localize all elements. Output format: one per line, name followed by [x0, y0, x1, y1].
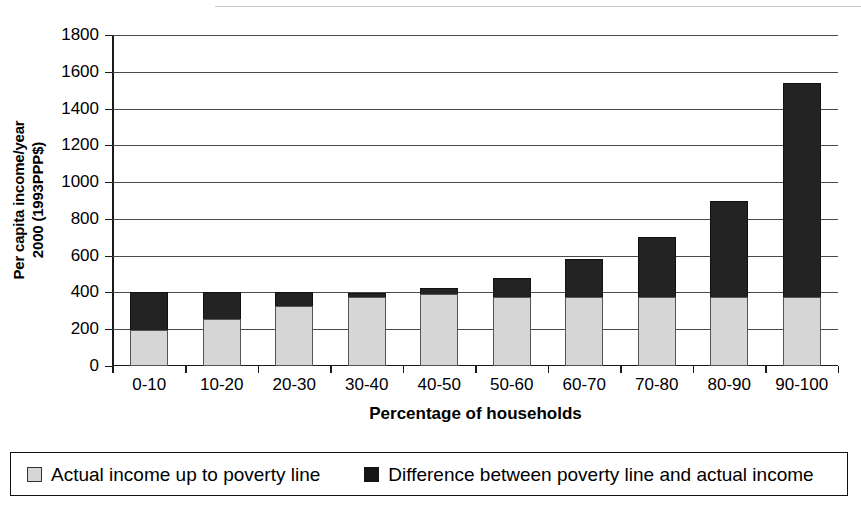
legend-item-difference: Difference between poverty line and actu… — [364, 465, 813, 484]
y-tick-mark — [105, 292, 112, 293]
y-tick-mark — [105, 329, 112, 330]
bar-segment-difference[interactable] — [710, 201, 748, 297]
bars-group — [113, 35, 838, 366]
bar-segment-difference[interactable] — [493, 278, 531, 297]
bar-slot — [258, 35, 331, 366]
plot-area: 020040060080010001200140016001800 — [113, 35, 838, 366]
stacked-bar[interactable] — [130, 292, 168, 366]
bar-segment-actual-income[interactable] — [275, 306, 313, 366]
y-tick-label: 200 — [39, 320, 99, 337]
y-axis-title: Per capita income/year 2000 (1993PPP$) — [0, 30, 56, 370]
bar-slot — [621, 35, 694, 366]
stacked-bar[interactable] — [275, 292, 313, 366]
x-tick-label: 0-10 — [113, 374, 186, 398]
scan-artifact-line — [215, 6, 861, 7]
stacked-bar[interactable] — [638, 237, 676, 366]
y-tick-label: 1600 — [39, 63, 99, 80]
bar-segment-difference[interactable] — [565, 259, 603, 297]
legend-label-actual-income: Actual income up to poverty line — [51, 465, 320, 484]
y-tick-mark — [105, 366, 112, 367]
stacked-bar[interactable] — [493, 278, 531, 366]
y-tick-label: 1400 — [39, 100, 99, 117]
stacked-bar[interactable] — [203, 292, 241, 366]
bar-segment-actual-income[interactable] — [493, 297, 531, 366]
y-tick-mark — [105, 256, 112, 257]
bar-slot — [186, 35, 259, 366]
x-tick-mark — [403, 366, 405, 373]
x-tick-mark — [548, 366, 550, 373]
bar-slot — [403, 35, 476, 366]
stacked-bar[interactable] — [420, 288, 458, 366]
x-tick-mark — [475, 366, 477, 373]
bar-slot — [766, 35, 839, 366]
x-tick-labels-group: 0-1010-2020-3030-4040-5050-6060-7070-808… — [113, 374, 838, 398]
bar-segment-difference[interactable] — [638, 237, 676, 297]
light-square-swatch-icon — [27, 467, 42, 482]
x-tick-label: 10-20 — [186, 374, 259, 398]
x-tick-mark — [620, 366, 622, 373]
x-tick-label: 50-60 — [476, 374, 549, 398]
x-tick-mark — [185, 366, 187, 373]
y-axis-title-line-1: Per capita income/year — [9, 120, 28, 279]
bar-segment-actual-income[interactable] — [638, 297, 676, 366]
y-tick-label: 400 — [39, 283, 99, 300]
y-tick-label: 600 — [39, 247, 99, 264]
chart-legend: Actual income up to poverty line Differe… — [10, 452, 848, 496]
legend-label-difference: Difference between poverty line and actu… — [388, 465, 813, 484]
y-tick-label: 800 — [39, 210, 99, 227]
x-tick-label: 20-30 — [258, 374, 331, 398]
stacked-bar[interactable] — [783, 83, 821, 366]
bar-segment-difference[interactable] — [203, 292, 241, 319]
x-tick-mark — [765, 366, 767, 373]
x-tick-label: 70-80 — [621, 374, 694, 398]
x-tick-label: 60-70 — [548, 374, 621, 398]
bar-segment-actual-income[interactable] — [420, 294, 458, 366]
y-tick-label: 1200 — [39, 136, 99, 153]
y-tick-mark — [105, 182, 112, 183]
y-tick-mark — [105, 72, 112, 73]
bar-segment-actual-income[interactable] — [565, 297, 603, 366]
y-tick-label: 1000 — [39, 173, 99, 190]
stacked-bar-chart-figure: Per capita income/year 2000 (1993PPP$) 0… — [0, 0, 861, 515]
y-tick-label: 1800 — [39, 26, 99, 43]
x-axis-title: Percentage of households — [113, 404, 838, 424]
x-tick-label: 80-90 — [693, 374, 766, 398]
stacked-bar[interactable] — [710, 201, 748, 366]
bar-slot — [548, 35, 621, 366]
x-tick-label: 40-50 — [403, 374, 476, 398]
bar-segment-actual-income[interactable] — [710, 297, 748, 366]
x-tick-mark — [838, 366, 840, 373]
stacked-bar[interactable] — [348, 293, 386, 366]
bar-segment-actual-income[interactable] — [203, 319, 241, 366]
y-tick-mark — [105, 145, 112, 146]
x-tick-mark — [258, 366, 260, 373]
bar-segment-actual-income[interactable] — [348, 297, 386, 367]
x-tick-mark — [330, 366, 332, 373]
x-tick-label: 30-40 — [331, 374, 404, 398]
bar-segment-actual-income[interactable] — [783, 297, 821, 366]
bar-segment-actual-income[interactable] — [130, 330, 168, 366]
bar-slot — [476, 35, 549, 366]
bar-slot — [113, 35, 186, 366]
legend-item-actual-income: Actual income up to poverty line — [27, 465, 320, 484]
y-tick-mark — [105, 35, 112, 36]
y-tick-mark — [105, 109, 112, 110]
bar-segment-difference[interactable] — [130, 292, 168, 330]
dark-square-swatch-icon — [364, 467, 379, 482]
bar-slot — [331, 35, 404, 366]
stacked-bar[interactable] — [565, 259, 603, 366]
bar-segment-difference[interactable] — [275, 292, 313, 306]
x-tick-mark — [693, 366, 695, 373]
bar-slot — [693, 35, 766, 366]
y-tick-label: 0 — [39, 357, 99, 374]
y-tick-mark — [105, 219, 112, 220]
bar-segment-difference[interactable] — [783, 83, 821, 297]
x-tick-mark — [112, 366, 114, 373]
x-tick-label: 90-100 — [766, 374, 839, 398]
